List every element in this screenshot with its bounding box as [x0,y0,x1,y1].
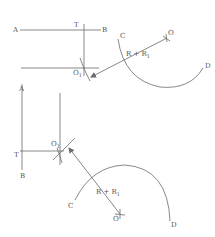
label-b-top: B [102,26,107,34]
label-r-top: R + R1 [126,50,150,59]
label-t-top: T [74,21,79,29]
o-cross-2-top [166,34,167,42]
arc-cd-top [118,39,203,87]
top-figure: A T B O1 C R + R1 O D [12,21,211,87]
bottom-figure: A T B O1 C R + R1 O D [14,84,177,229]
arc-cd-bottom [75,165,170,221]
label-o1-bottom: O1 [51,140,60,149]
label-c-top: C [120,32,125,40]
label-d-top: D [205,62,211,70]
construction-diagram: A T B O1 C R + R1 O D A T B O1 C R + R1 … [0,0,215,237]
locus-arc-o1-top [80,58,90,81]
label-c-bottom: C [68,202,73,210]
label-o1-top: O1 [73,69,82,78]
label-d-bottom: D [171,221,177,229]
label-o-top: O [168,29,174,37]
label-t-bottom: T [14,151,19,159]
label-b-bottom: B [20,172,25,180]
label-o-bottom: O [113,215,119,223]
label-a-bottom: A [18,85,25,93]
label-a-top: A [12,26,19,34]
center-line-bottom [69,148,120,214]
label-r-bottom: R + R1 [96,188,120,197]
